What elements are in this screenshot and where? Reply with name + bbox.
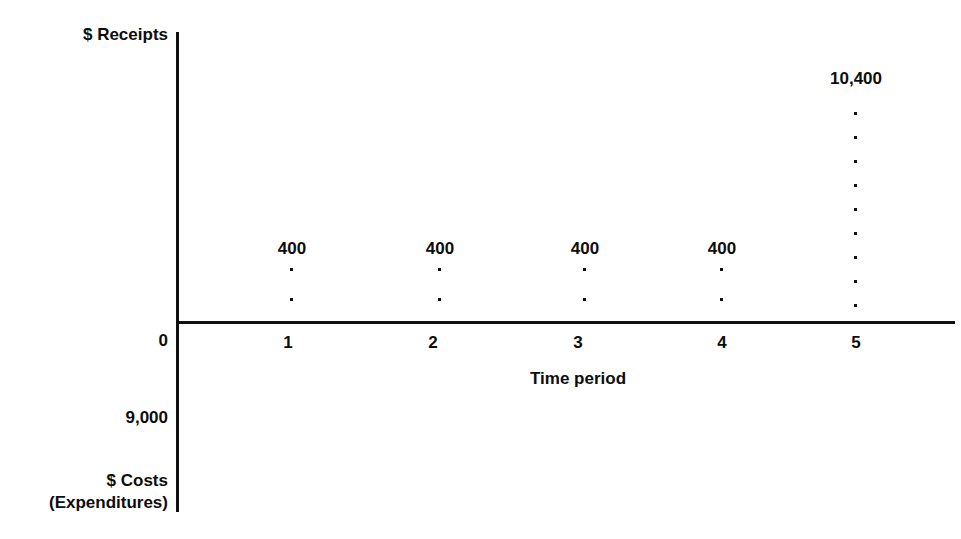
x-tick-label-2: 2 [428, 334, 437, 351]
y-axis-costs-label: $ Costs [68, 470, 168, 491]
y-axis-cost-value-label: 9,000 [125, 409, 168, 426]
y-axis-zero-label: 0 [159, 332, 168, 349]
x-tick-label-3: 3 [573, 334, 582, 351]
cash-flow-arrow-1 [292, 0, 293, 539]
y-axis-expenditures-label: (Expenditures) [8, 492, 168, 513]
vertical-axis [176, 32, 179, 512]
cash-flow-arrow-3 [585, 0, 586, 539]
horizontal-axis [179, 321, 955, 324]
cash-flow-arrow-2 [440, 0, 441, 539]
cash-flow-diagram: $ Receipts 0 9,000 $ Costs (Expenditures… [0, 0, 961, 539]
y-axis-receipts-label: $ Receipts [83, 26, 168, 43]
cash-flow-arrow-5 [856, 0, 857, 539]
cash-flow-arrow-4 [722, 0, 723, 539]
x-axis-title: Time period [530, 370, 626, 387]
